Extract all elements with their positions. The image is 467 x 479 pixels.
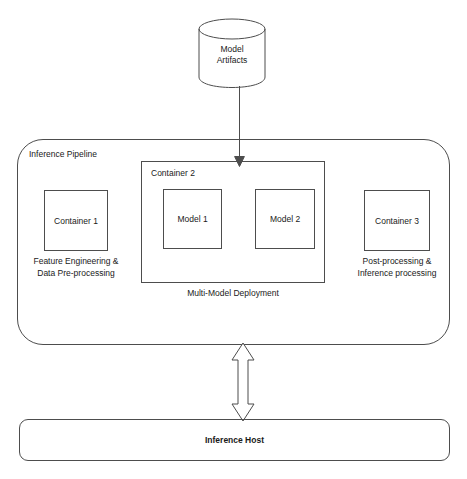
container-3-caption-line1: Post-processing &	[335, 256, 459, 268]
artifacts-store-label-line1: Model	[198, 44, 266, 55]
container-3-title: Container 3	[375, 216, 419, 226]
artifacts-store-label: Model Artifacts	[198, 44, 266, 66]
container-1-caption: Feature Engineering & Data Pre-processin…	[14, 256, 138, 279]
inference-host-label: Inference Host	[205, 435, 264, 445]
diagram-canvas: Model Artifacts Inference Pipeline Conta…	[0, 0, 467, 479]
inference-pipeline-label: Inference Pipeline	[29, 149, 97, 159]
container-1-box: Container 1	[44, 190, 108, 251]
model-2-box: Model 2	[255, 189, 315, 249]
container-2-caption: Multi-Model Deployment	[141, 288, 325, 298]
bidirectional-arrow-icon	[228, 342, 258, 422]
container-2-title: Container 2	[151, 168, 195, 178]
container-1-title: Container 1	[54, 216, 98, 226]
model-2-label: Model 2	[270, 214, 300, 224]
model-1-label: Model 1	[177, 214, 207, 224]
model-1-box: Model 1	[163, 189, 222, 249]
container-3-box: Container 3	[364, 190, 430, 251]
artifacts-store-label-line2: Artifacts	[198, 55, 266, 66]
container-3-caption-line2: Inference processing	[335, 268, 459, 280]
container-1-caption-line1: Feature Engineering &	[14, 256, 138, 268]
container-3-caption: Post-processing & Inference processing	[335, 256, 459, 279]
container-1-caption-line2: Data Pre-processing	[14, 268, 138, 280]
inference-host-box: Inference Host	[19, 419, 450, 461]
